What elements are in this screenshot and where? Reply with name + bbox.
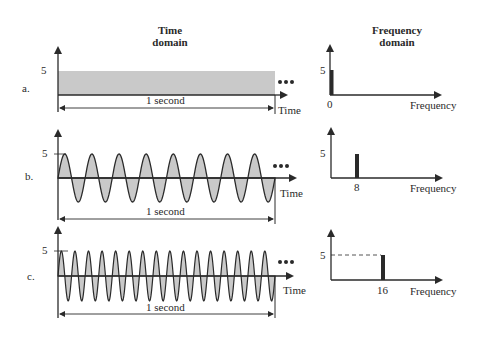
panel-a-time-axis-label: Time (278, 104, 301, 116)
panel-b-freq-axis-label: Frequency (410, 182, 456, 194)
panel-a-freq-tick: 0 (327, 98, 333, 110)
panel-a-frequency-domain (330, 46, 440, 95)
panel-b-freq-tick: 8 (354, 181, 360, 193)
panel-a-freq-axis-label: Frequency (410, 99, 456, 111)
panel-c-frequency-domain (331, 231, 441, 280)
panel-c-time-axis-label: Time (283, 284, 306, 296)
panel-a-duration-label: 1 second (146, 94, 185, 106)
panel-a-amplitude-label: 5 (41, 64, 47, 76)
diagram-canvas (0, 0, 481, 337)
panel-c-freq-tick: 16 (377, 284, 388, 296)
panel-c-duration-label: 1 second (146, 301, 185, 313)
panel-c-freq-amp-label: 5 (320, 249, 326, 261)
panel-c-amplitude-label: 5 (42, 244, 48, 256)
panel-c-label: c. (27, 270, 35, 282)
panel-c-freq-axis-label: Frequency (410, 285, 456, 297)
panel-a-freq-amp-label: 5 (320, 64, 326, 76)
panel-b-label: b. (25, 170, 33, 182)
panel-b-freq-amp-label: 5 (320, 147, 326, 159)
panel-b-amplitude-label: 5 (42, 147, 48, 159)
panel-b-duration-label: 1 second (146, 205, 185, 217)
panel-a-label: a. (22, 82, 30, 94)
panel-b-time-axis-label: Time (280, 187, 303, 199)
panel-b-frequency-domain (331, 129, 441, 178)
